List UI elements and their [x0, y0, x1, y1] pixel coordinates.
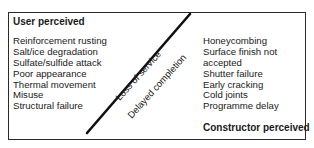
constructor-perceived-heading: Constructor perceived [203, 122, 310, 134]
list-item: Structural failure [13, 101, 107, 112]
list-item: Poor appearance [13, 69, 107, 80]
list-item: Programme delay [203, 101, 279, 112]
list-item: Shutter failure [203, 69, 279, 80]
constructor-perceived-list: Honeycombing Surface finish not accepted… [203, 36, 279, 112]
user-perceived-list: Reinforcement rusting Salt/ice degradati… [13, 36, 107, 112]
user-perceived-heading: User perceived [13, 16, 85, 28]
